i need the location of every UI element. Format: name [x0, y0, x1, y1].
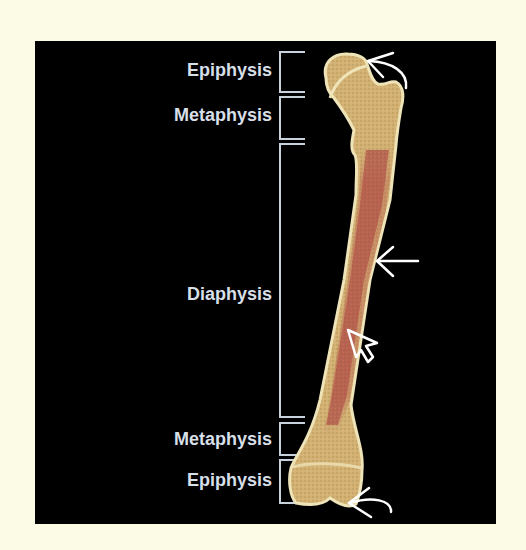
femur-illustration [0, 0, 526, 550]
bone-outline [290, 54, 403, 506]
bracket-proximal-epiphysis [280, 52, 305, 92]
bracket-diaphysis [280, 144, 305, 417]
bracket-proximal-metaphysis [280, 97, 305, 139]
brackets [280, 52, 305, 503]
femur-bone [290, 54, 403, 506]
shaft-arrow [377, 247, 418, 276]
